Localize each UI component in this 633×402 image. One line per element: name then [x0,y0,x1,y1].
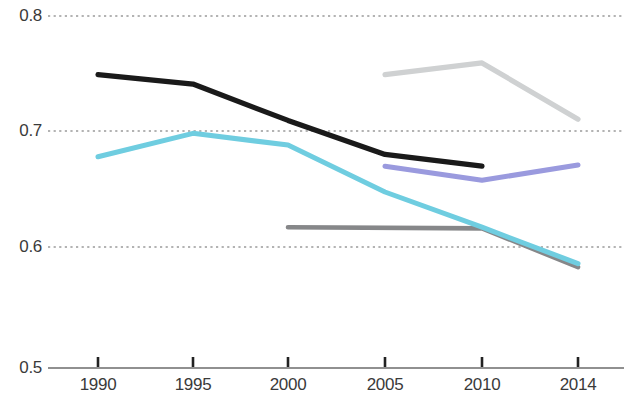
chart-plot-area [0,0,633,402]
line-chart: 0.8 0.7 0.6 0.5 1990 1995 2000 2005 2010… [0,0,633,402]
gridlines [48,16,624,247]
series-line-light-gray [385,63,578,119]
x-axis-label-1995: 1995 [158,376,228,393]
y-axis-label-0-7: 0.7 [0,122,42,139]
x-axis-label-2000: 2000 [253,376,323,393]
series-line-black [98,75,482,167]
x-axis-label-2010: 2010 [447,376,517,393]
y-axis-label-0-5: 0.5 [0,359,42,376]
series-lines [98,63,578,267]
y-axis-label-0-8: 0.8 [0,7,42,24]
x-axis [48,357,624,368]
series-line-cyan [98,133,578,263]
x-axis-label-1990: 1990 [63,376,133,393]
y-axis-label-0-6: 0.6 [0,238,42,255]
x-axis-label-2014: 2014 [543,376,613,393]
x-axis-label-2005: 2005 [350,376,420,393]
